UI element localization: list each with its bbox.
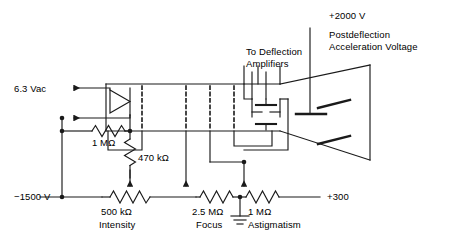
- label-positive-rail: +300: [327, 191, 349, 203]
- label-r-1meg-astig-function: Astigmatism: [248, 219, 301, 231]
- label-r-500k-function: Intensity: [99, 219, 135, 231]
- grid-electrodes: [142, 86, 234, 129]
- label-r-2meg5-function: Focus: [196, 219, 222, 231]
- cathode-heater-symbol: [110, 88, 130, 115]
- label-heater-supply: 6.3 Vac: [14, 83, 46, 95]
- label-pda-desc-line2: Acceleration Voltage: [329, 41, 418, 53]
- crt-envelope: [280, 65, 370, 160]
- crt-neck-outline: [106, 84, 280, 131]
- resistor-1meg-astig-body: [240, 191, 320, 203]
- label-r-1meg-value: 1 MΩ: [92, 137, 115, 149]
- wiring-layer: [40, 28, 370, 224]
- label-r-470k-value: 470 kΩ: [138, 152, 169, 164]
- deflection-plates: [256, 105, 276, 124]
- crt-circuit-diagram: 6.3 Vac −1500 V 1 MΩ 470 kΩ 500 kΩ Inten…: [0, 0, 456, 245]
- label-deflection-amplifiers-line1: To Deflection: [246, 46, 302, 58]
- label-r-2meg5-value: 2.5 MΩ: [192, 206, 223, 218]
- label-deflection-amplifiers-line2: Amplifiers: [246, 58, 289, 70]
- heater-leads: [74, 88, 130, 118]
- resistor-2meg5-body: [196, 191, 240, 203]
- label-r-500k-value: 500 kΩ: [101, 206, 132, 218]
- deflection-amplifier-leads: [252, 72, 266, 99]
- label-pda-desc-line1: Postdeflection: [329, 29, 390, 41]
- resistor-500k-body: [102, 191, 196, 203]
- electrode-feed-wires: [108, 131, 272, 186]
- label-r-1meg-astig-value: 1 MΩ: [248, 206, 271, 218]
- label-negative-rail: −1500 V: [14, 191, 50, 203]
- ground-symbol: [231, 197, 249, 224]
- internal-plates: [318, 100, 350, 144]
- label-pda-voltage: +2000 V: [329, 10, 365, 22]
